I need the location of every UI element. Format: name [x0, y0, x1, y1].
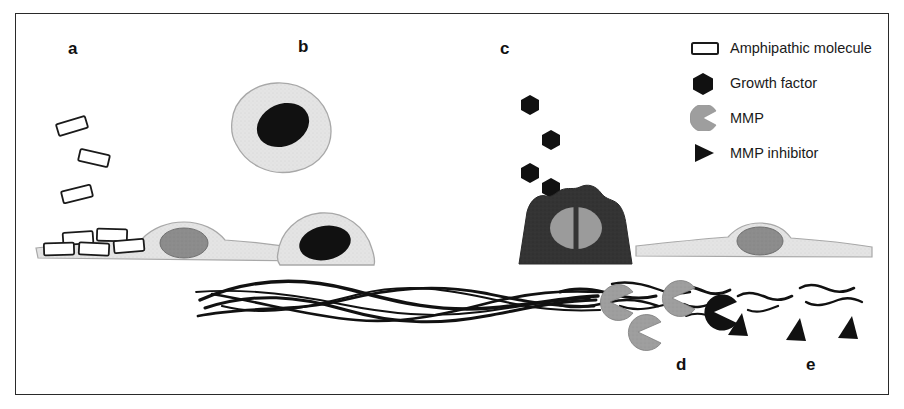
- legend-item-amphipathic-molecule: Amphipathic molecule: [690, 30, 890, 65]
- legend-label-amphipathic-molecule: Amphipathic molecule: [730, 40, 872, 56]
- legend-label-mmp: MMP: [730, 110, 764, 126]
- hexagon-filled-icon: [690, 70, 720, 96]
- legend: Amphipathic molecule Growth factor MMP M…: [690, 30, 890, 170]
- nucleus-gray-left: [160, 228, 208, 258]
- panel-d-group: [600, 280, 695, 350]
- triangle-right-icon: [690, 140, 720, 166]
- legend-item-mmp: MMP: [690, 100, 890, 135]
- panel-label-b: b: [298, 38, 308, 55]
- legend-label-mmp-inhibitor: MMP inhibitor: [730, 145, 818, 161]
- nucleus-division-cleft: [574, 206, 579, 250]
- legend-label-growth-factor: Growth factor: [730, 75, 817, 91]
- mmp-3: [628, 315, 661, 351]
- mmp-inhibitor-icon: [838, 316, 858, 339]
- growth-factor-icon: [542, 130, 560, 150]
- panel-b-group: [232, 83, 375, 265]
- growth-factor-icon: [521, 95, 539, 115]
- nucleus-gray-right: [737, 227, 783, 255]
- mmp-2: [662, 280, 695, 316]
- free-amphipathic-molecules: [56, 116, 110, 204]
- rounded-cell-upper: [232, 83, 331, 173]
- legend-item-mmp-inhibitor: MMP inhibitor: [690, 135, 890, 170]
- mmp-1: [600, 285, 633, 321]
- mmp-inhibited: [704, 295, 737, 331]
- flat-cell-right: [636, 223, 872, 257]
- panel-c-group: [519, 95, 632, 264]
- activated-cell: [519, 185, 632, 264]
- legend-item-growth-factor: Growth factor: [690, 65, 890, 100]
- panel-label-d: d: [676, 356, 686, 373]
- figure-root: a b c d e Amphipathic molecule Growth fa…: [0, 0, 904, 409]
- panel-label-e: e: [806, 356, 815, 373]
- pacman-icon: [690, 105, 720, 131]
- bound-amphipathic-molecules: [44, 228, 145, 255]
- panel-label-a: a: [68, 40, 77, 57]
- panel-label-c: c: [500, 40, 509, 57]
- growth-factor-hexagons: [521, 95, 560, 198]
- ecm-fiber-network: [196, 281, 862, 322]
- mmp-inhibitor-icon: [786, 318, 806, 341]
- growth-factor-icon: [521, 163, 539, 183]
- rounded-cell-lower: [277, 213, 374, 265]
- rectangle-outline-icon: [690, 35, 720, 61]
